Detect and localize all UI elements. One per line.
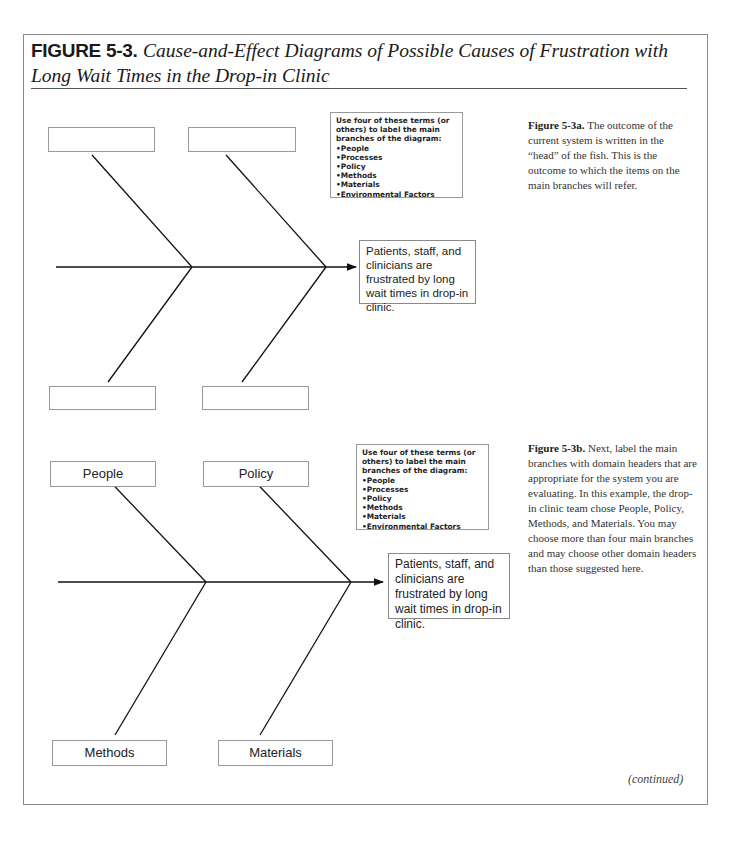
term-item: Policy [336,162,457,171]
diagram-b-lines [58,470,383,735]
term-item: Methods [362,503,483,512]
branch-a-top-left [92,155,192,267]
branch-label-people: People [50,461,156,487]
caption-b-text: Next, label the main branches with domai… [528,442,697,574]
terms-intro: Use four of these terms (or others) to l… [336,116,457,144]
branch-label-a-4 [202,386,309,410]
branch-a-bottom-left [108,267,192,382]
terms-box-b: Use four of these terms (or others) to l… [356,444,489,530]
fish-head-a: Patients, staff, and clinicians are frus… [359,240,476,304]
caption-a-label: Figure 5-3a. [528,119,585,131]
branch-label-a-2 [188,127,296,152]
branch-b-bottom-right [260,582,351,735]
terms-intro: Use four of these terms (or others) to l… [362,448,483,476]
term-item: Processes [362,485,483,494]
term-item: Processes [336,153,457,162]
term-item: Methods [336,171,457,180]
branch-label-policy: Policy [203,461,309,487]
caption-b-label: Figure 5-3b. [528,442,585,454]
term-item: Environmental Factors [362,522,483,531]
caption-a: Figure 5-3a. The outcome of the current … [528,118,693,193]
diagram-a-lines [56,155,356,382]
branch-label-a-3 [49,386,156,410]
branch-a-bottom-right [242,267,326,382]
branch-label-methods: Methods [52,740,167,766]
term-item: Environmental Factors [336,190,457,199]
caption-b: Figure 5-3b. Next, label the main branch… [528,441,698,576]
branch-label-materials: Materials [218,740,333,766]
fish-head-b: Patients, staff, and clinicians are frus… [388,553,510,619]
term-item: Policy [362,494,483,503]
continued-note: (continued) [628,772,683,787]
branch-b-bottom-left [115,582,206,735]
term-item: People [336,144,457,153]
branch-a-top-right [226,155,326,267]
term-item: Materials [336,180,457,189]
terms-box-a: Use four of these terms (or others) to l… [330,112,463,198]
term-item: People [362,476,483,485]
branch-label-a-1 [48,127,155,152]
term-item: Materials [362,512,483,521]
